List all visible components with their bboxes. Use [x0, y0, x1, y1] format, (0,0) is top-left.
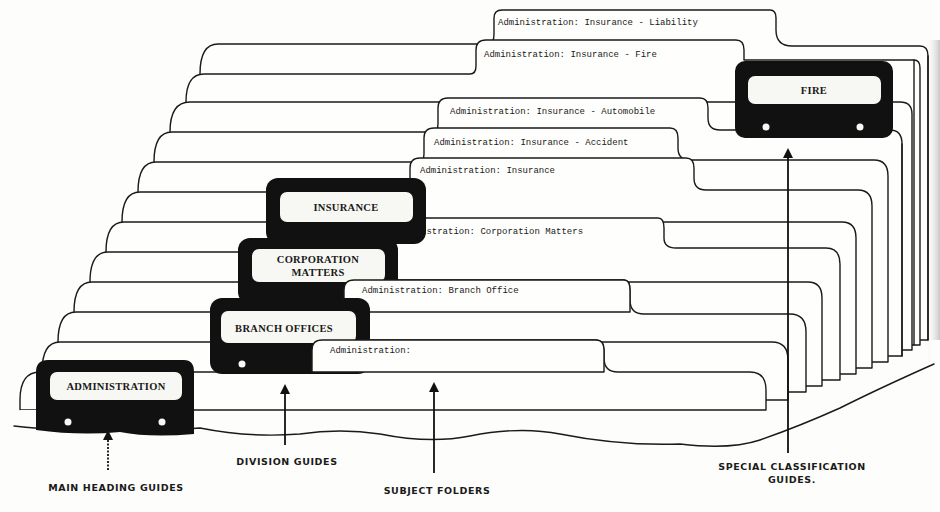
- guide-label-corporation-line1: CORPORATION: [277, 254, 360, 265]
- guide-label-insurance: INSURANCE: [313, 202, 378, 213]
- caption-subject-folders: SUBJECT FOLDERS: [384, 485, 491, 496]
- tab-label-automobile: Administration: Insurance - Automobile: [450, 107, 655, 117]
- guide-label-branch: BRANCH OFFICES: [235, 323, 333, 334]
- tab-label-liability: Administration: Insurance - Liability: [498, 18, 698, 28]
- caption-special-classification-line1: SPECIAL CLASSIFICATION: [718, 461, 866, 472]
- guide-label-fire: FIRE: [801, 85, 827, 96]
- guide-label-administration: ADMINISTRATION: [66, 381, 165, 392]
- folder-admin-tab-overlay: [312, 340, 604, 372]
- tab-label-insurance: Administration: Insurance: [420, 166, 555, 176]
- guide-card-insurance: INSURANCE: [266, 178, 426, 244]
- tab-label-admin-overlay: Administration:: [330, 346, 411, 356]
- guide-hole-icon: [239, 361, 246, 368]
- tab-label-fire: Administration: Insurance - Fire: [484, 50, 657, 60]
- caption-special-classification-line2: GUIDES.: [768, 474, 816, 485]
- folder-branch-tab-overlay: [344, 280, 630, 312]
- guide-card-fire: FIRE: [735, 61, 893, 138]
- guide-hole-icon: [65, 419, 72, 426]
- guide-hole-icon: [159, 419, 166, 426]
- caption-division-guides: DIVISION GUIDES: [236, 456, 337, 467]
- guide-hole-icon: [857, 124, 864, 131]
- filing-diagram: Administration: Insurance - Liability Ad…: [0, 0, 940, 512]
- diagram-canvas: Administration: Insurance - Liability Ad…: [0, 0, 940, 512]
- caption-main-heading-guides: MAIN HEADING GUIDES: [48, 482, 184, 493]
- guide-hole-icon: [763, 124, 770, 131]
- tab-label-branch-overlay: Administration: Branch Office: [362, 286, 519, 296]
- tab-label-accident: Administration: Insurance - Accident: [434, 138, 628, 148]
- guide-label-corporation-line2: MATTERS: [291, 267, 344, 278]
- guide-card-administration: ADMINISTRATION: [36, 360, 194, 436]
